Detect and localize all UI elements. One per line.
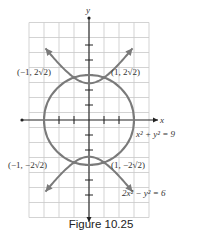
- point-label-lower-right: (1, −2√2): [111, 160, 145, 170]
- circle-equation-label: x² + y² = 9: [135, 129, 176, 139]
- intersection-point: [73, 76, 76, 79]
- x-axis-arrow: [153, 118, 158, 123]
- point-label-upper-right: (1, 2√2): [111, 67, 140, 77]
- point-label-upper-left: (−1, 2√2): [17, 67, 51, 77]
- intersection-point: [73, 161, 76, 164]
- figure-caption: Figure 10.25: [0, 218, 202, 230]
- hyperbola-equation-label: 2x² − y² = 6: [122, 188, 166, 198]
- y-axis-label: y: [85, 5, 90, 15]
- x-axis-label: x: [159, 115, 164, 125]
- y-axis-top-endpoint: [87, 16, 90, 19]
- intersection-point: [103, 76, 106, 79]
- x-axis-left-endpoint: [20, 118, 23, 121]
- intersection-point: [103, 161, 106, 164]
- figure-graph: x y (−1, 2√2) (1, 2√2) (−1, −2√2) (1, −2…: [0, 0, 202, 241]
- point-label-lower-left: (−1, −2√2): [8, 160, 47, 170]
